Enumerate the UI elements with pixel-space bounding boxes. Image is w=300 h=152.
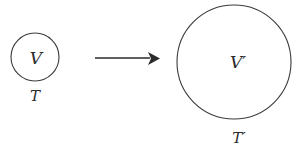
source-inner-label: V: [30, 48, 44, 68]
transition-arrow-group: [95, 52, 160, 65]
source-state-group: V T: [11, 33, 59, 105]
source-outer-label: T: [30, 87, 41, 105]
target-outer-label: T′: [232, 129, 246, 147]
diagram-canvas: V T V′ T′: [0, 0, 300, 152]
diagram-root: V T V′ T′: [0, 0, 300, 152]
target-inner-label: V′: [230, 52, 246, 72]
target-state-group: V′ T′: [177, 5, 291, 147]
